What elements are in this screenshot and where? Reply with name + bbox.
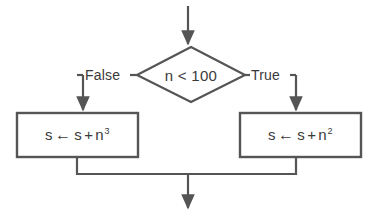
decision-diamond <box>137 47 245 102</box>
branch-label-false: False <box>85 67 120 83</box>
merge-connector <box>77 157 296 174</box>
flowchart-diagram: n < 100 False True s←s+n3 s←s+n2 <box>0 0 375 214</box>
process-box-left <box>17 113 138 157</box>
branch-label-true: True <box>251 67 280 83</box>
flowchart-graphics <box>0 0 375 214</box>
process-box-right <box>240 113 361 157</box>
